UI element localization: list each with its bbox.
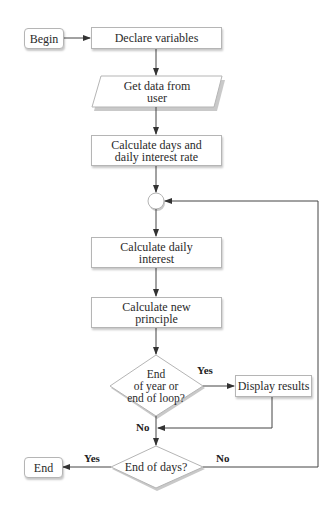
- begin-label: Begin: [30, 33, 59, 45]
- end-terminal: End: [24, 457, 63, 478]
- declare-variables-label: Declare variables: [115, 32, 199, 44]
- declare-variables-box: Declare variables: [91, 27, 222, 49]
- calc-new-principle-box: Calculate new principle: [91, 297, 222, 328]
- edge-label-days-yes: Yes: [84, 452, 100, 464]
- display-results-label: Display results: [238, 380, 310, 392]
- end-label: End: [34, 462, 53, 474]
- get-data-label: Get data from user: [95, 76, 219, 107]
- display-results-box: Display results: [235, 375, 312, 397]
- calc-daily-interest-label: Calculate daily interest: [120, 241, 192, 265]
- calc-days-box: Calculate days and daily interest rate: [91, 135, 222, 166]
- decision-end-of-days-label: End of days?: [116, 458, 196, 476]
- edge-label-days-no: No: [216, 452, 229, 464]
- calc-new-principle-label: Calculate new principle: [122, 301, 190, 325]
- connector-circle: [148, 193, 165, 211]
- edge-label-year-no: No: [136, 421, 149, 433]
- edge-label-year-yes: Yes: [197, 364, 213, 376]
- begin-terminal: Begin: [24, 28, 64, 49]
- decision-end-of-year-label: End of year or end of loop?: [116, 361, 196, 411]
- calc-daily-interest-box: Calculate daily interest: [91, 237, 222, 268]
- calc-days-label: Calculate days and daily interest rate: [111, 139, 202, 163]
